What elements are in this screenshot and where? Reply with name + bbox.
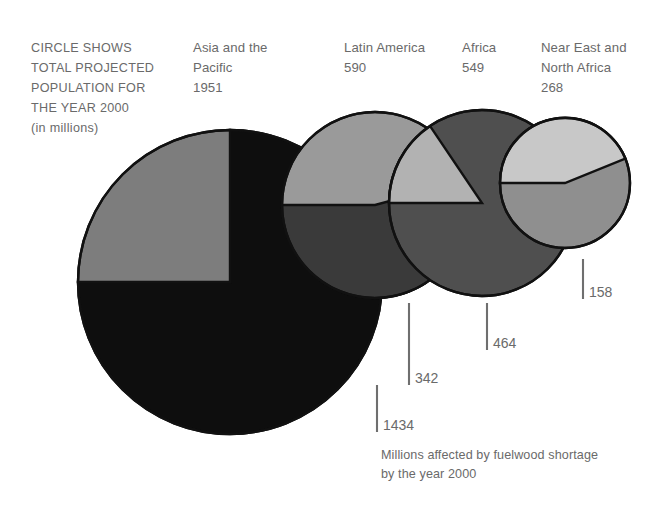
- callout-value-near-east: 158: [589, 284, 613, 300]
- region-label-near-east-line-2: North Africa: [541, 60, 612, 75]
- region-label-asia-line-2: Pacific: [193, 60, 233, 75]
- footnote-line-1: Millions affected by fuelwood shortage: [381, 448, 598, 462]
- footnote-line-2: by the year 2000: [381, 467, 476, 481]
- region-total-asia: 1951: [193, 80, 223, 95]
- region-label-asia-line-1: Asia and the: [193, 40, 268, 55]
- legend-line-5: (in millions): [31, 121, 99, 135]
- callout-value-latin-america: 342: [415, 370, 439, 386]
- callout-value-asia: 1434: [383, 417, 414, 433]
- region-label-africa-line-1: Africa: [462, 40, 497, 55]
- callout-value-africa: 464: [493, 335, 517, 351]
- pie-near-east-and-north-africa[interactable]: [500, 118, 630, 248]
- region-total-latin-america: 590: [344, 60, 366, 75]
- fuelwood-shortage-figure: CIRCLE SHOWS TOTAL PROJECTED POPULATION …: [0, 0, 655, 506]
- region-total-near-east: 268: [541, 80, 563, 95]
- legend-line-4: THE YEAR 2000: [31, 101, 129, 115]
- region-label-latin-america-line-1: Latin America: [344, 40, 426, 55]
- pie-chart-canvas: CIRCLE SHOWS TOTAL PROJECTED POPULATION …: [0, 0, 655, 506]
- region-label-near-east-line-1: Near East and: [541, 40, 627, 55]
- legend-line-3: POPULATION FOR: [31, 81, 146, 95]
- legend-line-2: TOTAL PROJECTED: [31, 61, 154, 75]
- region-total-africa: 549: [462, 60, 484, 75]
- legend-line-1: CIRCLE SHOWS: [31, 41, 132, 55]
